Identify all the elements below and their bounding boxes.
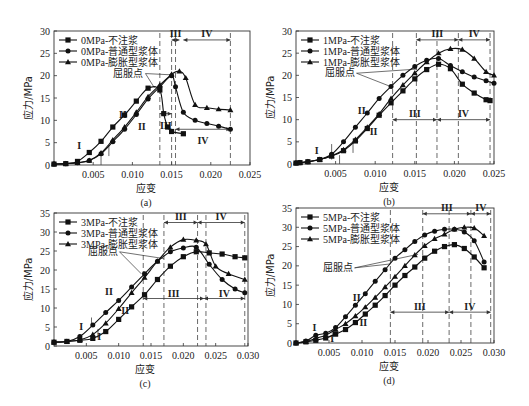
chart-canvas: 0510152025300.0050.0100.0150.0200.025应变应…: [0, 0, 529, 406]
square-marker: [98, 139, 103, 144]
circle-marker: [363, 291, 368, 296]
stage-label-II: II: [138, 121, 146, 132]
square-marker: [472, 90, 477, 95]
circle-marker: [116, 298, 121, 303]
y-tick-label: 30: [40, 26, 50, 37]
chart-panel-c: 051015202530350.0050.0100.0150.0200.0250…: [22, 208, 259, 391]
triangle-marker: [343, 321, 349, 326]
triangle-marker: [213, 263, 219, 268]
y-axis-label: 应力/MPa: [22, 76, 34, 120]
square-marker: [460, 82, 465, 87]
circle-marker: [365, 111, 370, 116]
circle-marker: [308, 226, 313, 231]
x-axis-label: 应变: [379, 360, 399, 372]
chart-panel-b: 0510152025300.0050.0100.0150.0200.025应变应…: [264, 26, 505, 209]
square-marker: [383, 293, 388, 298]
square-marker: [343, 327, 348, 332]
y-tick-label: 5: [287, 318, 292, 329]
y-tick-label: 15: [40, 93, 50, 104]
x-tick-label: 0.015: [160, 169, 183, 180]
stage-label-I: I: [77, 140, 81, 151]
y-tick-label: 5: [45, 137, 50, 148]
y-axis-label: 应力/MPa: [264, 254, 276, 298]
legend: 1MPa-不注浆1MPa-普通型浆体1MPa-膨胀型浆体: [301, 34, 400, 68]
x-tick-label: 0.030: [237, 350, 260, 361]
circle-marker: [432, 229, 437, 234]
stage-label-III: III: [168, 288, 180, 299]
circle-marker: [462, 229, 467, 234]
circle-marker: [66, 231, 71, 236]
square-marker: [220, 251, 225, 256]
x-tick-label: 0.025: [483, 168, 506, 179]
y-tick-label: 25: [282, 241, 292, 252]
circle-marker: [129, 285, 134, 290]
x-tick-label: 0.020: [200, 169, 223, 180]
circle-marker: [193, 118, 198, 123]
y-axis-label: 应力/MPa: [264, 76, 276, 120]
y-tick-label: 15: [282, 92, 292, 103]
y-tick-label: 30: [282, 222, 292, 233]
square-marker: [442, 244, 447, 249]
x-tick-label: 0.025: [450, 347, 473, 358]
square-marker: [432, 249, 437, 254]
y-tick-label: 0: [45, 341, 50, 352]
yield-point-pointer: [145, 74, 170, 75]
square-marker: [242, 255, 247, 260]
square-marker: [155, 277, 160, 282]
circle-marker: [216, 124, 221, 129]
stage-label-III: III: [175, 211, 187, 222]
yield-point-pointer: [357, 73, 393, 87]
x-tick-label: 0.010: [121, 169, 144, 180]
square-marker: [110, 124, 115, 129]
square-marker: [116, 317, 121, 322]
triangle-marker: [183, 75, 189, 80]
circle-marker: [103, 310, 108, 315]
square-marker: [87, 150, 92, 155]
y-tick-label: 15: [282, 280, 292, 291]
circle-marker: [204, 121, 209, 126]
y-tick-label: 15: [40, 284, 50, 295]
triangle-marker: [442, 231, 448, 236]
panel-caption: (d): [383, 375, 395, 387]
x-axis-label: 应变: [379, 181, 399, 193]
stage-label-II: II: [105, 286, 113, 297]
legend-entry: 0MPa-普通型浆体: [81, 45, 158, 57]
x-tick-label: 0.020: [417, 347, 440, 358]
y-tick-label: 25: [40, 48, 50, 59]
circle-marker: [341, 139, 346, 144]
yield-point-label: 屈服点: [113, 68, 143, 79]
y-tick-label: 0: [45, 160, 50, 171]
legend-entry: 5MPa-膨胀型浆体: [323, 233, 400, 245]
circle-marker: [400, 73, 405, 78]
stage-label-III: III: [170, 28, 182, 39]
x-axis-label: 应变: [135, 363, 155, 375]
square-marker: [363, 311, 368, 316]
chart-panel-a: 0510152025300.0050.0100.0150.0200.025应变应…: [22, 26, 261, 210]
circle-marker: [181, 110, 186, 115]
circle-marker: [389, 84, 394, 89]
y-tick-label: 10: [282, 299, 292, 310]
chart-panel-d: 051015202530350.0050.0100.0150.0200.0250…: [264, 202, 505, 387]
y-tick-label: 5: [45, 322, 50, 333]
circle-marker: [436, 56, 441, 61]
circle-marker: [402, 247, 407, 252]
x-axis-label: 应变: [136, 182, 156, 194]
stage-label-IV: IV: [469, 28, 481, 39]
circle-marker: [383, 267, 388, 272]
legend-entry: 5MPa-不注浆: [323, 211, 380, 223]
series-circle: [52, 73, 233, 166]
stage-label-IV: IV: [216, 211, 228, 222]
y-tick-label: 30: [282, 26, 292, 37]
x-tick-label: 0.015: [384, 347, 407, 358]
square-marker: [392, 283, 397, 288]
y-tick-label: 5: [287, 136, 292, 147]
legend-entry: 1MPa-膨胀型浆体: [323, 56, 400, 68]
square-marker: [307, 37, 312, 42]
x-tick-label: 0.005: [318, 347, 341, 358]
circle-marker: [422, 233, 427, 238]
x-tick-label: 0.025: [204, 350, 227, 361]
circle-marker: [393, 256, 398, 261]
x-tick-label: 0.005: [82, 169, 105, 180]
legend: 5MPa-不注浆5MPa-普通型浆体5MPa-膨胀型浆体: [301, 211, 400, 245]
yield-point-pointer: [120, 252, 164, 259]
